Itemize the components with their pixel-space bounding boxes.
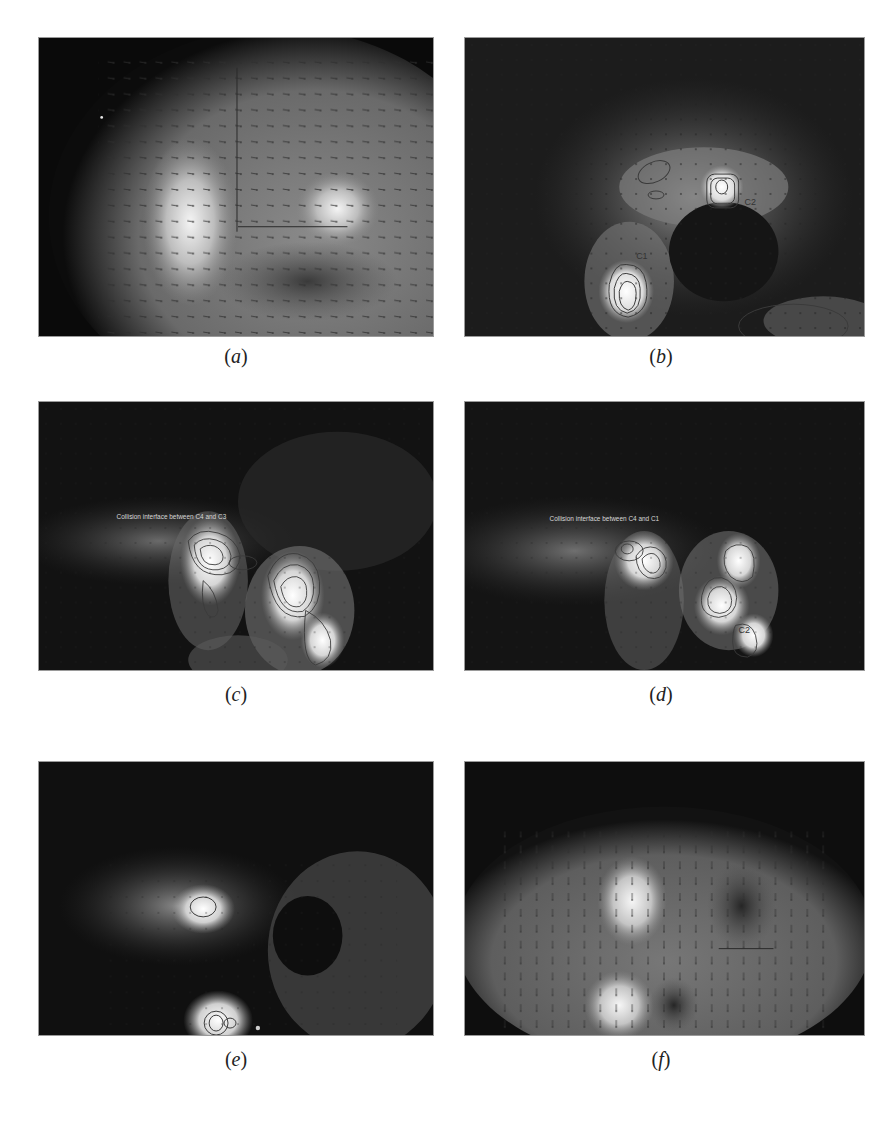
panel-f	[464, 761, 865, 1036]
panel-a	[38, 37, 434, 337]
panel-a-field-image	[39, 38, 433, 336]
annotation-text: Collision interface between C4 and C1	[550, 515, 660, 522]
panel-c-field-image: Collision interface between C4 and C3	[39, 402, 433, 670]
caption-paren: (	[649, 345, 656, 367]
caption-f: (f)	[621, 1048, 701, 1071]
caption-paren: )	[666, 345, 673, 367]
panel-e-field-image	[39, 762, 433, 1035]
caption-paren: )	[240, 683, 247, 705]
caption-letter: d	[656, 683, 666, 705]
caption-paren: )	[241, 345, 248, 367]
caption-letter: a	[231, 345, 241, 367]
panel-d-field-image: C2 Collision interface between C4 and C1	[465, 402, 864, 670]
caption-d: (d)	[621, 683, 701, 706]
panel-c: Collision interface between C4 and C3	[38, 401, 434, 671]
panel-f-field-image	[465, 762, 864, 1035]
caption-c: (c)	[196, 683, 276, 706]
contour-label: C1	[636, 251, 647, 261]
caption-paren: )	[664, 1048, 671, 1070]
caption-a: (a)	[196, 345, 276, 368]
panel-b: C2 C1	[464, 37, 865, 337]
caption-paren: (	[225, 1048, 232, 1070]
caption-paren: )	[666, 683, 673, 705]
annotation-text: Collision interface between C4 and C3	[117, 513, 227, 520]
caption-paren: (	[225, 683, 232, 705]
caption-paren: (	[649, 683, 656, 705]
contour-label: C2	[745, 197, 756, 207]
caption-e: (e)	[196, 1048, 276, 1071]
contour-label: C2	[739, 625, 750, 635]
caption-letter: b	[656, 345, 666, 367]
caption-paren: )	[240, 1048, 247, 1070]
panel-b-field-image: C2 C1	[465, 38, 864, 336]
panel-d: C2 Collision interface between C4 and C1	[464, 401, 865, 671]
panel-e	[38, 761, 434, 1036]
caption-b: (b)	[621, 345, 701, 368]
caption-paren: (	[224, 345, 231, 367]
